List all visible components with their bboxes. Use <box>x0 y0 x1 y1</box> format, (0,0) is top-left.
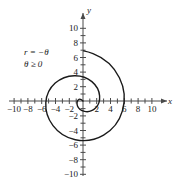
polar-spiral-figure: −10 −8 −6 −4 −2 2 4 6 8 10 10 8 6 4 2 −2… <box>0 0 178 184</box>
y-tick-label: 2 <box>74 82 79 92</box>
y-tick-label: −6 <box>68 140 78 150</box>
y-tick-label: −4 <box>68 126 78 136</box>
y-tick-label: 8 <box>74 38 79 48</box>
x-tick-label: 8 <box>136 104 141 114</box>
x-tick-label: 2 <box>94 104 99 114</box>
x-tick-label: −10 <box>7 104 22 114</box>
x-tick-label: 4 <box>108 104 113 114</box>
y-tick-label: 6 <box>74 53 79 63</box>
x-tick-label: 6 <box>122 104 127 114</box>
equation-line-2: θ ≥ 0 <box>24 59 43 69</box>
y-tick-label: 10 <box>69 23 79 33</box>
equation-line-1: r = −θ <box>24 47 49 57</box>
y-tick-label: −2 <box>68 111 78 121</box>
y-axis-arrow-icon <box>81 13 86 19</box>
x-axis-arrow-icon <box>161 99 167 104</box>
x-tick-label: −6 <box>37 104 47 114</box>
axis-group <box>9 13 167 176</box>
y-axis-label: y <box>86 5 91 15</box>
x-tick-label: −8 <box>23 104 33 114</box>
y-tick-label: 4 <box>74 67 79 77</box>
plot-canvas: −10 −8 −6 −4 −2 2 4 6 8 10 10 8 6 4 2 −2… <box>0 0 178 184</box>
x-tick-label: 10 <box>147 104 157 114</box>
y-tick-label: −10 <box>64 169 79 179</box>
x-tick-label: −4 <box>51 104 61 114</box>
equation-annotation: r = −θ θ ≥ 0 <box>24 47 49 69</box>
x-axis-label: x <box>167 96 172 106</box>
y-tick-label: −8 <box>68 155 78 165</box>
